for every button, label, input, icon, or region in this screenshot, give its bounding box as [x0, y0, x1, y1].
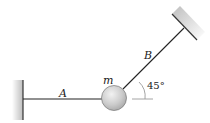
rope-b-label: B	[143, 49, 152, 62]
angle-label: 45°	[147, 80, 165, 91]
mass-ball	[102, 86, 127, 111]
left-wall-shading	[12, 80, 23, 120]
left-wall-support	[12, 80, 23, 120]
rope-a-label: A	[58, 87, 67, 100]
mass-label: m	[103, 74, 113, 87]
angle-arc	[139, 82, 145, 99]
statics-diagram: A B m 45°	[0, 0, 210, 123]
